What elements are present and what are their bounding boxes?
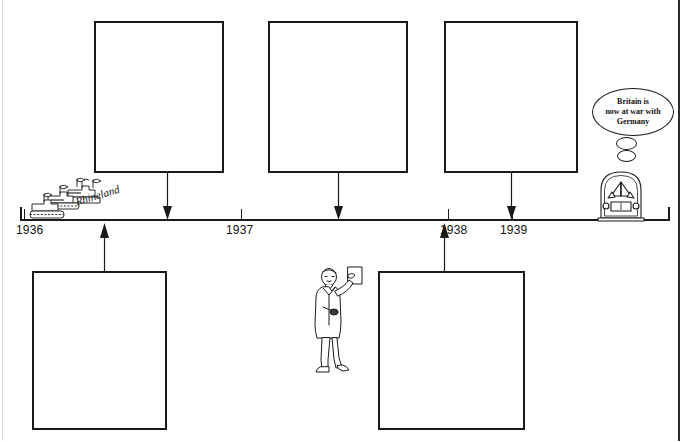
timeline-axis [20,219,670,221]
answer-box-bottom-2[interactable] [378,271,525,430]
answer-box-bottom-1[interactable] [32,271,167,430]
year-label-1938: 1938 [440,223,468,237]
speech-bubble-tail-small [617,150,636,162]
radio-illustration [594,166,648,222]
radio-speech-bubble-text: Britain isnow at war withGermany [599,97,666,127]
timeline-tick-1938 [448,209,449,219]
answer-box-top-2[interactable] [268,21,408,173]
answer-box-top-3[interactable] [444,21,578,173]
arrow-down-1936-event [160,172,176,222]
timeline-tick-1937 [241,209,242,219]
arrow-down-1937-event [331,172,347,222]
speech-bubble-tail-large [616,137,637,150]
year-label-1936: 1936 [16,223,44,237]
arrow-up-rhineland [97,222,113,272]
worksheet-page: 1936 1937 1938 1939 Rhineland [0,0,684,442]
year-label-1937: 1937 [226,223,254,237]
timeline-tick-1939 [512,209,513,219]
man-with-paper-illustration [306,263,372,381]
year-label-1939: 1939 [500,223,528,237]
axis-cap-right [668,207,670,221]
answer-box-top-1[interactable] [94,21,224,173]
radio-speech-bubble: Britain isnow at war withGermany [592,88,674,136]
